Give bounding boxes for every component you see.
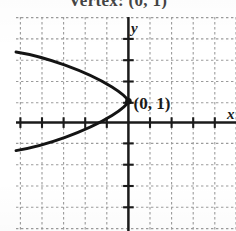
axes [16, 17, 236, 231]
worksheet-graph-screenshot: Vertex: (0, 1) [0, 0, 236, 231]
graph-svg: (0, 1) y x [0, 13, 236, 231]
x-axis-label: x [226, 106, 235, 122]
parabola-curve [16, 52, 128, 151]
vertex-point-marker [125, 98, 132, 105]
y-axis-label: y [129, 20, 138, 36]
page-title: Vertex: (0, 1) [0, 0, 236, 9]
grid-lines [16, 17, 236, 231]
vertex-coordinate-label: (0, 1) [134, 94, 171, 113]
coordinate-graph: (0, 1) y x [0, 13, 236, 231]
